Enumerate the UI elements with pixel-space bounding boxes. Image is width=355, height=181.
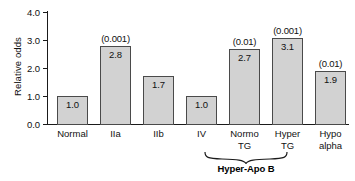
x-tick-label-hypo-alpha: Hypo alpha — [305, 128, 355, 151]
y-tick-label-2: 2.0 — [0, 63, 40, 74]
bar-value-iib: 1.7 — [143, 79, 174, 90]
x-tick-label-iv-line1: IV — [197, 128, 206, 139]
y-tick-label-1: 1.0 — [0, 91, 40, 102]
bar-value-hyper-tg: 3.1 — [272, 41, 303, 52]
y-tick-label-3: 3.0 — [0, 35, 40, 46]
y-axis-line — [47, 11, 48, 125]
y-tick-label-4: 4.0 — [0, 7, 40, 18]
bar-pvalue-normo-tg: (0.01) — [225, 36, 264, 47]
bar-pvalue-iia: (0.001) — [95, 33, 136, 44]
bar-pvalue-hyper-tg: (0.001) — [267, 25, 308, 36]
bar-value-normo-tg: 2.7 — [229, 52, 260, 63]
x-tick-label-iib-line1: IIb — [153, 128, 164, 139]
y-tick-label-0: 0.0 — [0, 119, 40, 130]
x-tick-label-iia-line1: IIa — [110, 128, 121, 139]
x-tick-label-normal-line1: Normal — [57, 128, 88, 139]
x-tick-label-hypo-alpha-line2: alpha — [305, 140, 355, 152]
x-tick-label-hypo-alpha-line1: Hypo — [319, 128, 341, 139]
relative-odds-bar-chart: Relative odds 4.0 3.0 2.0 1.0 0.0 1.0 2.… — [0, 0, 355, 181]
bar-pvalue-hypo-alpha: (0.01) — [311, 58, 350, 69]
bar-value-iv: 1.0 — [186, 99, 217, 110]
bar-value-iia: 2.8 — [100, 49, 131, 60]
x-tick-label-hyper-tg-line1: Hyper — [275, 128, 300, 139]
bar-value-hypo-alpha: 1.9 — [315, 74, 346, 85]
hyper-apo-b-group-label: Hyper-Apo B — [186, 163, 306, 174]
x-tick-label-normo-tg-line1: Normo — [230, 128, 259, 139]
bar-value-normal: 1.0 — [57, 99, 88, 110]
